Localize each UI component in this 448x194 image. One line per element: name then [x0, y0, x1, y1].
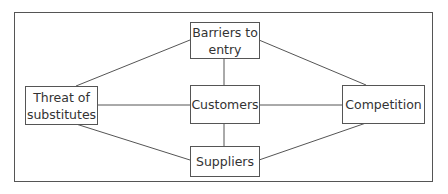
edge-suppliers-competition: [259, 123, 366, 160]
node-label-line2: entry: [208, 41, 241, 58]
edge-threat-suppliers: [76, 124, 190, 160]
node-customers: Customers: [190, 85, 260, 124]
node-label-line1: Threat of: [33, 89, 90, 106]
node-threat-of-substitutes: Threat of substitutes: [25, 86, 98, 125]
node-label-line1: Barriers to: [192, 24, 258, 41]
node-competition: Competition: [342, 85, 425, 124]
node-label: Competition: [345, 96, 422, 113]
node-label-line2: substitutes: [27, 106, 96, 123]
edge-barriers-threat: [76, 40, 190, 86]
node-label: Suppliers: [196, 153, 254, 170]
node-suppliers: Suppliers: [190, 146, 260, 177]
edge-barriers-competition: [259, 40, 366, 85]
node-label: Customers: [191, 96, 258, 113]
node-barriers-to-entry: Barriers to entry: [190, 22, 260, 59]
